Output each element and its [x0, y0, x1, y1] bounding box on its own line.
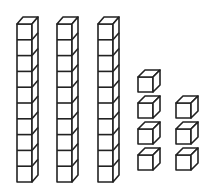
unit-cube-3 — [138, 122, 160, 144]
unit-cube-6 — [176, 122, 198, 144]
unit-cube-2 — [138, 96, 160, 118]
unit-cube-4 — [138, 148, 160, 170]
unit-cube-1 — [138, 70, 160, 92]
ten-rod-2 — [57, 17, 78, 182]
ten-rod-1 — [17, 17, 38, 182]
unit-cube-5 — [176, 96, 198, 118]
base-ten-blocks-diagram: Base-ten blocks 37 — [0, 0, 208, 192]
blocks-drawing — [0, 0, 208, 192]
ten-rod-3 — [98, 17, 119, 182]
unit-cube-7 — [176, 148, 198, 170]
